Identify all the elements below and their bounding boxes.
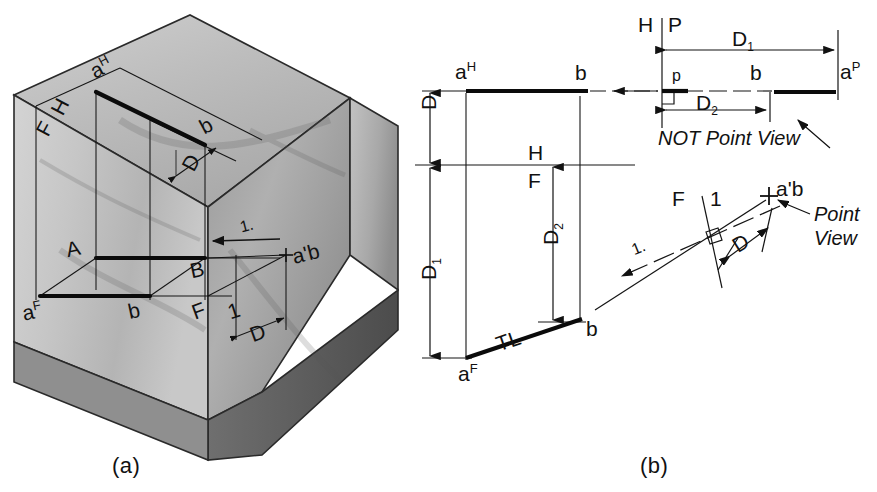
leader-not-point-view <box>798 120 830 148</box>
ortho-label-b-profile: b <box>750 62 762 83</box>
ortho-label-p-profile: p <box>672 68 681 84</box>
front-view-line <box>466 319 582 358</box>
aux-sight-line <box>622 206 780 276</box>
ortho-label-aux-point: a'b <box>776 178 803 199</box>
ortho-fold-f-1-left: F <box>672 188 685 209</box>
ortho-label-b-top: b <box>575 62 587 83</box>
aux-tick-point <box>762 208 772 252</box>
perp-symbol-p <box>662 92 674 104</box>
line-ab-front <box>466 319 582 358</box>
ortho-fold-f-1-right: 1 <box>710 188 722 209</box>
ortho-dim-D1-top-right: D1 <box>732 28 754 53</box>
ortho-fold-h-p-right: P <box>668 14 682 35</box>
aux-construction <box>595 196 780 310</box>
ortho-fold-h-p-left: H <box>638 14 653 35</box>
ortho-label-a-p: aP <box>840 60 860 82</box>
caption-b: (b) <box>640 455 668 477</box>
ortho-note-not-point-view: NOT Point View <box>658 128 800 148</box>
ortho-label-a-f: aF <box>458 362 478 384</box>
ortho-label-b-front: b <box>586 318 598 339</box>
ortho-note-point-view-1: Point <box>814 204 860 224</box>
ortho-dim-D2-right: D2 <box>696 92 718 117</box>
figure-root: aH b H F D A B aF b F 1 1. a'b D <box>0 0 877 492</box>
caption-a: (a) <box>112 455 140 477</box>
ortho-dim-D2-center: D2 <box>540 223 565 245</box>
ortho-dim-D1-left: D1 <box>418 258 443 280</box>
leader-point-view <box>778 200 810 214</box>
orthographic-pane: aH b D D1 H F D2 aF b TL H P D1 p b aP <box>400 0 877 492</box>
ortho-fold-f-label: F <box>528 170 541 191</box>
pictorial-label-a-f: aF <box>20 298 44 324</box>
ortho-fold-h-label: H <box>528 142 543 163</box>
pictorial-pane: aH b H F D A B aF b F 1 1. a'b D <box>0 0 440 492</box>
ortho-note-point-view-2: View <box>814 228 857 248</box>
ortho-thin-lines <box>415 91 658 360</box>
ortho-dim-D-left: D <box>418 95 443 110</box>
ortho-label-a-h: aH <box>455 60 476 82</box>
face-right <box>350 98 398 290</box>
